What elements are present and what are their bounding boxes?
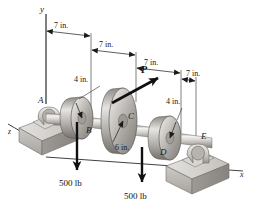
pulley-d-radius-label: 4 in. — [166, 97, 180, 106]
axis-z-label: z — [7, 127, 11, 136]
label-bearing-a: A — [37, 95, 44, 105]
dimension-chain — [47, 31, 195, 81]
label-pulley-d: D — [159, 147, 167, 157]
pulley-b-radius-label: 4 in. — [74, 75, 88, 84]
load-label-b: 500 lb — [59, 178, 82, 188]
force-p-label: P — [141, 64, 148, 75]
axis-x-label: x — [239, 170, 244, 179]
shaft-pulley-diagram: y x z 7 in. 7 in. 7 in. 7 in. A — [0, 0, 253, 204]
dimension-line-de — [182, 79, 195, 81]
label-pulley-c: C — [128, 111, 135, 121]
dimension-line-ab — [47, 31, 90, 36]
axis-y-label: y — [39, 4, 44, 14]
dimension-line-bc — [92, 50, 135, 55]
dimension-label-ab: 7 in. — [54, 21, 68, 30]
pulley-c-radius-label: 6 in. — [115, 143, 129, 152]
label-pulley-b: B — [86, 125, 92, 135]
dimension-label-de: 7 in. — [186, 69, 200, 78]
load-label-d: 500 lb — [124, 191, 147, 201]
dimension-label-bc: 7 in. — [99, 40, 113, 49]
pulley-b-radius-leader-ext — [79, 86, 100, 99]
label-bearing-e: E — [200, 131, 207, 141]
